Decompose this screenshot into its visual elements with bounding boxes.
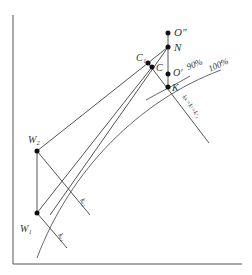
point-o-double-prime bbox=[166, 31, 171, 36]
point-c1 bbox=[146, 61, 151, 66]
point-k bbox=[166, 85, 171, 90]
label-kk: kₖ=kᶜ=kᶜ₁ bbox=[181, 94, 202, 119]
point-c bbox=[150, 65, 155, 70]
label-n: N bbox=[173, 41, 182, 53]
point-w2 bbox=[35, 149, 40, 154]
line-w2-c1 bbox=[37, 63, 148, 151]
label-w1: W₁ bbox=[20, 223, 32, 234]
point-n bbox=[166, 45, 171, 50]
label-k: K bbox=[171, 82, 180, 93]
line-kw1 bbox=[37, 213, 67, 248]
label-90-percent: 90% bbox=[185, 56, 204, 71]
point-w1 bbox=[35, 211, 40, 216]
label-c1: C₁ bbox=[136, 52, 146, 63]
curve-100 bbox=[37, 70, 221, 258]
label-o-prime: O' bbox=[173, 67, 183, 78]
point-o-prime bbox=[166, 72, 171, 77]
line-n-down bbox=[50, 47, 168, 215]
line-w1-c bbox=[37, 67, 152, 213]
label-c: C bbox=[156, 62, 163, 73]
label-kw1: kᵤ₁ bbox=[56, 232, 67, 243]
label-w2: W₂ bbox=[28, 134, 40, 145]
label-o-double-prime: O" bbox=[174, 26, 187, 38]
diagram-canvas: O" N C₁ C O' K W₂ W₁ 90% 100% kᵤ₂ kᵤ₁ kₖ… bbox=[0, 0, 252, 275]
diagram-svg: O" N C₁ C O' K W₂ W₁ 90% 100% kᵤ₂ kᵤ₁ kₖ… bbox=[0, 0, 252, 275]
label-kw2: kᵤ₂ bbox=[78, 197, 89, 208]
